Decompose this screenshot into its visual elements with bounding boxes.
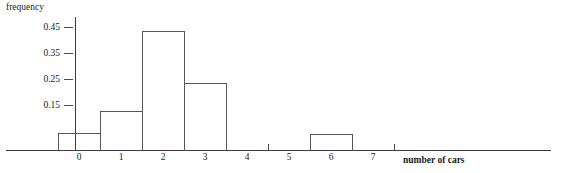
histogram-bar-1 [100, 111, 143, 151]
histogram-screenshot: frequency number of cars 0.45 0.35 0.25 … [0, 0, 561, 173]
x-tick-label-0: 0 [64, 152, 94, 162]
x-tick-label-4: 4 [232, 152, 262, 162]
y-tick-label-025: 0.25 [22, 74, 60, 84]
y-axis-title: frequency [6, 2, 44, 13]
histogram-bar-2 [142, 31, 185, 151]
y-tick-label-035: 0.35 [22, 48, 60, 58]
histogram-bar-0 [58, 133, 101, 151]
x-tick-mark-b8 [394, 144, 395, 151]
histogram-bar-6 [310, 134, 353, 151]
y-tick-mark-035 [64, 53, 73, 54]
x-axis-title: number of cars [403, 155, 465, 166]
x-tick-label-6: 6 [316, 152, 346, 162]
y-axis-line [75, 17, 76, 150]
y-tick-label-015: 0.15 [22, 100, 60, 110]
x-tick-mark-b5 [268, 144, 269, 151]
x-tick-label-5: 5 [274, 152, 304, 162]
x-tick-label-3: 3 [190, 152, 220, 162]
y-tick-mark-045 [64, 27, 73, 28]
histogram-plot-area: frequency number of cars 0.45 0.35 0.25 … [0, 0, 561, 173]
y-tick-mark-015 [64, 105, 73, 106]
y-tick-label-045: 0.45 [22, 22, 60, 32]
histogram-bar-3 [184, 83, 227, 151]
y-tick-mark-025 [64, 79, 73, 80]
x-tick-label-1: 1 [106, 152, 136, 162]
x-tick-label-7: 7 [358, 152, 388, 162]
x-tick-label-2: 2 [148, 152, 178, 162]
